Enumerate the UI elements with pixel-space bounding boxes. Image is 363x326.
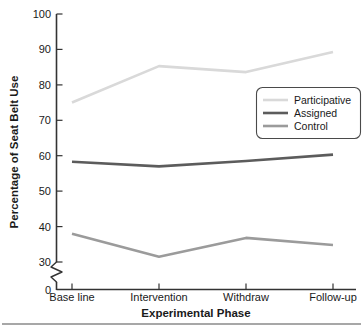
y-tick-marks	[57, 14, 63, 262]
y-tick-label: 30	[39, 256, 51, 268]
y-tick-label: 40	[39, 221, 51, 233]
y-tick-label: 70	[39, 114, 51, 126]
x-tick-label: Follow-up	[309, 291, 357, 303]
series-line-control	[72, 234, 333, 257]
y-axis-break-icon	[51, 262, 62, 282]
y-axis-title: Percentage of Seat Belt Use	[8, 76, 20, 229]
y-tick-label: 90	[39, 43, 51, 55]
x-tick-label: Base line	[49, 291, 94, 303]
x-axis-title: Experimental Phase	[141, 307, 250, 319]
chart-canvas: 100 90 80 70 60 50 40 30 0 Base line Int…	[0, 0, 363, 326]
x-tick-labels: Base line Intervention Withdraw Follow-u…	[49, 291, 356, 303]
legend-label-control: Control	[294, 120, 328, 132]
legend-label-assigned: Assigned	[294, 107, 337, 119]
y-tick-label: 60	[39, 150, 51, 162]
x-tick-marks	[72, 284, 333, 290]
x-tick-label: Withdraw	[223, 291, 269, 303]
y-tick-labels: 100 90 80 70 60 50 40 30 0	[33, 8, 51, 296]
series-line-assigned	[72, 155, 333, 167]
legend-label-participative: Participative	[294, 94, 351, 106]
seat-belt-use-line-chart: 100 90 80 70 60 50 40 30 0 Base line Int…	[0, 0, 363, 326]
y-tick-label: 100	[33, 8, 51, 20]
y-tick-label: 50	[39, 185, 51, 197]
y-tick-label: 80	[39, 79, 51, 91]
chart-legend: Participative Assigned Control	[257, 88, 361, 139]
series-group	[72, 52, 333, 257]
x-tick-label: Intervention	[130, 291, 187, 303]
